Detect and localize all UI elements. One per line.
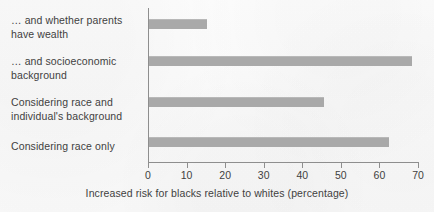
x-tick-mark: [302, 163, 303, 168]
category-label-line: have wealth: [11, 28, 145, 42]
x-tick-mark: [225, 163, 226, 168]
bar-chart: … and whether parents have wealth … and …: [0, 0, 434, 212]
x-tick-mark: [418, 163, 419, 168]
bar-fill: [148, 56, 412, 66]
bar-race-and-background: [148, 97, 324, 107]
category-label-line: individual's background: [11, 110, 145, 124]
bar-fill: [148, 137, 389, 147]
x-tick-mark: [264, 163, 265, 168]
bar-socioeconomic: [148, 56, 412, 66]
x-tick-label: 50: [335, 169, 347, 181]
x-tick-mark: [187, 163, 188, 168]
category-label-race-and-background: Considering race and individual's backgr…: [11, 96, 145, 123]
x-tick-mark: [148, 163, 149, 168]
bar-fill: [148, 19, 207, 29]
category-label-line: Considering race and: [11, 96, 145, 110]
x-tick-label: 0: [145, 169, 151, 181]
x-tick-label: 70: [412, 169, 424, 181]
category-label-parents-wealth: … and whether parents have wealth: [11, 14, 145, 41]
y-axis-line: [148, 8, 149, 163]
x-tick-mark: [379, 163, 380, 168]
plot-area: [148, 8, 418, 163]
bar-parents-wealth: [148, 19, 207, 29]
category-label-socioeconomic: … and socioeconomic background: [11, 55, 145, 82]
bar-fill: [148, 97, 324, 107]
x-tick-label: 60: [374, 169, 386, 181]
category-label-line: Considering race only: [11, 140, 145, 154]
x-tick-label: 10: [181, 169, 193, 181]
x-axis-title: Increased risk for blacks relative to wh…: [0, 187, 434, 199]
bar-race-only: [148, 137, 389, 147]
x-tick-mark: [341, 163, 342, 168]
x-tick-label: 40: [296, 169, 308, 181]
category-label-line: … and socioeconomic: [11, 55, 145, 69]
category-label-line: background: [11, 69, 145, 83]
x-tick-label: 20: [219, 169, 231, 181]
x-tick-label: 30: [258, 169, 270, 181]
x-axis-line: [148, 162, 419, 163]
category-label-line: … and whether parents: [11, 14, 145, 28]
category-label-race-only: Considering race only: [11, 140, 145, 154]
